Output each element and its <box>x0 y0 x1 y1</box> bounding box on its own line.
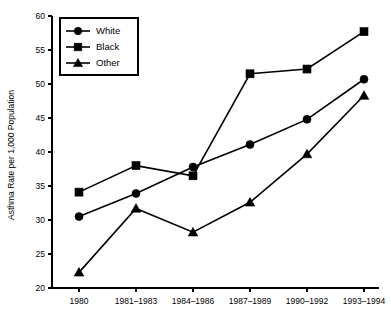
x-axis-tick-label: 1993–1994 <box>343 296 386 306</box>
y-axis-tick-label: 50 <box>36 79 46 89</box>
data-point-square-marker <box>360 28 368 36</box>
data-point-triangle-marker <box>188 227 198 236</box>
legend-label-white: White <box>96 25 120 36</box>
data-point-circle-marker <box>303 115 311 123</box>
series-other <box>74 91 369 276</box>
data-point-square-marker <box>246 70 254 78</box>
x-axis: 19801981–19831984–19861987–19891990–1992… <box>52 288 386 306</box>
data-point-circle-marker <box>132 189 140 197</box>
data-point-circle-marker <box>360 75 368 83</box>
data-point-square-marker <box>75 188 83 196</box>
y-axis-title: Asthma Rate per 1,000 Population <box>6 90 16 220</box>
data-point-square-marker <box>189 172 197 180</box>
chart-canvas: 202530354045505560 19801981–19831984–198… <box>0 0 391 327</box>
chart-legend: WhiteBlackOther <box>60 18 138 75</box>
x-axis-tick-label: 1984–1986 <box>172 296 215 306</box>
data-point-circle-marker <box>246 141 254 149</box>
series-line-other <box>79 96 364 273</box>
y-axis-tick-label: 35 <box>36 181 46 191</box>
series-line-white <box>79 79 364 216</box>
data-point-triangle-marker <box>359 91 369 100</box>
data-point-square-marker <box>303 65 311 73</box>
data-point-triangle-marker <box>131 204 141 213</box>
y-axis-tick-label: 45 <box>36 113 46 123</box>
x-axis-tick-label: 1980 <box>70 296 89 306</box>
legend-label-black: Black <box>96 41 119 52</box>
data-point-square-marker <box>74 43 82 51</box>
legend-label-other: Other <box>96 57 120 68</box>
y-axis: 202530354045505560 <box>36 11 52 293</box>
data-point-circle-marker <box>75 213 83 221</box>
asthma-rate-line-chart: 202530354045505560 19801981–19831984–198… <box>0 0 391 327</box>
x-axis-tick-label: 1981–1983 <box>115 296 158 306</box>
data-point-square-marker <box>132 162 140 170</box>
y-axis-tick-label: 25 <box>36 249 46 259</box>
y-axis-tick-label: 60 <box>36 11 46 21</box>
y-axis-tick-label: 30 <box>36 215 46 225</box>
series-white <box>75 75 368 220</box>
x-axis-tick-label: 1987–1989 <box>229 296 272 306</box>
y-axis-tick-label: 20 <box>36 283 46 293</box>
y-axis-tick-label: 55 <box>36 45 46 55</box>
x-axis-tick-label: 1990–1992 <box>286 296 329 306</box>
data-point-circle-marker <box>74 27 82 35</box>
y-axis-tick-label: 40 <box>36 147 46 157</box>
